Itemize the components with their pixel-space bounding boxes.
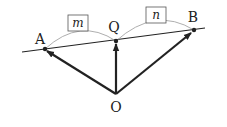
vector-OB bbox=[116, 33, 191, 94]
ratio-label-n: n bbox=[152, 8, 160, 22]
point-A bbox=[43, 47, 47, 51]
label-A: A bbox=[34, 31, 46, 47]
arc-AQ bbox=[45, 31, 116, 49]
label-Q: Q bbox=[108, 19, 119, 35]
point-Q bbox=[114, 39, 118, 43]
label-B: B bbox=[188, 9, 198, 25]
ratio-label-m: m bbox=[72, 16, 83, 30]
point-B bbox=[192, 28, 196, 32]
vector-OA bbox=[47, 51, 116, 94]
vector-division-diagram: m n A Q B O bbox=[0, 0, 227, 127]
label-O: O bbox=[110, 99, 121, 115]
